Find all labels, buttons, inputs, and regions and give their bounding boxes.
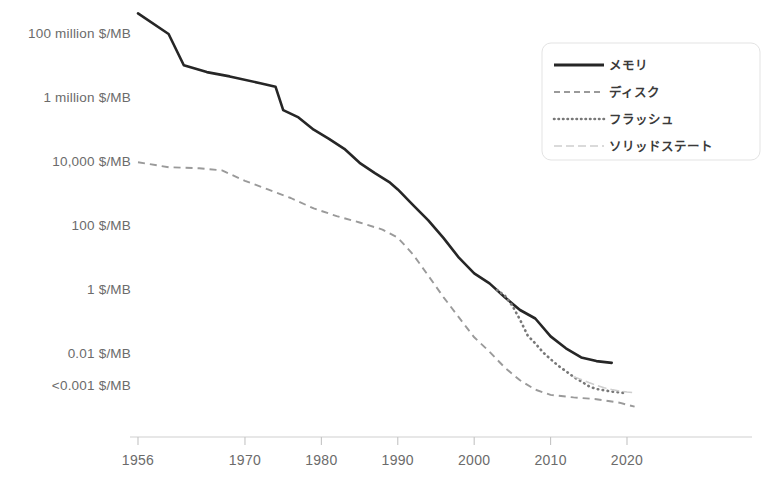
x-axis-label: 1970 bbox=[229, 452, 261, 468]
y-axis-label: <0.001 $/MB bbox=[52, 378, 131, 393]
y-axis-label: 10,000 $/MB bbox=[52, 154, 131, 169]
x-axis-label: 2010 bbox=[534, 452, 566, 468]
series-line bbox=[138, 162, 635, 407]
y-axis-tick-labels: 100 million $/MB1 million $/MB10,000 $/M… bbox=[28, 26, 131, 393]
x-axis-label: 2020 bbox=[611, 452, 643, 468]
x-axis bbox=[130, 437, 752, 445]
y-axis-label: 100 $/MB bbox=[72, 218, 131, 233]
legend-item-label[interactable]: ソリッドステート bbox=[609, 140, 713, 154]
x-axis-label: 1980 bbox=[305, 452, 337, 468]
chart-legend: メモリディスクフラッシュソリッドステート bbox=[542, 43, 760, 160]
legend-item-label[interactable]: ディスク bbox=[609, 85, 660, 100]
x-axis-label: 2000 bbox=[458, 452, 490, 468]
y-axis-label: 1 $/MB bbox=[87, 282, 131, 297]
legend-item-label[interactable]: フラッシュ bbox=[609, 113, 674, 127]
series-line bbox=[138, 13, 612, 363]
y-axis-label: 1 million $/MB bbox=[43, 90, 131, 105]
x-axis-tick-labels: 1956197019801990200020102020 bbox=[122, 452, 643, 468]
legend-item-label[interactable]: メモリ bbox=[609, 59, 648, 73]
y-axis-label: 100 million $/MB bbox=[28, 26, 131, 41]
chart-canvas: 100 million $/MB1 million $/MB10,000 $/M… bbox=[0, 0, 762, 479]
x-axis-label: 1956 bbox=[122, 452, 154, 468]
x-axis-label: 1990 bbox=[382, 452, 414, 468]
y-axis-label: 0.01 $/MB bbox=[68, 346, 131, 361]
storage-cost-chart: 100 million $/MB1 million $/MB10,000 $/M… bbox=[0, 0, 762, 479]
